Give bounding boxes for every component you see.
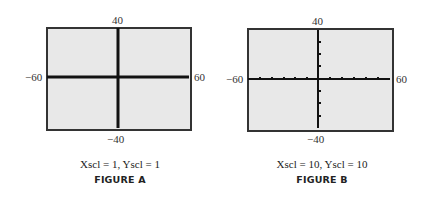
caption-a: Xscl = 1, Yscl = 1 [70,158,170,170]
figure-a: 40 −40 −60 60 Xscl = 1, Yscl = 1 FIGURE … [0,0,212,197]
ymax-label-b: 40 [312,16,323,27]
caption-b: Xscl = 10, Yscl = 10 [262,158,382,170]
ymin-label-b: −40 [307,134,324,145]
ymax-label-a: 40 [112,15,123,26]
ymin-label-a: −40 [107,134,124,145]
xmax-label-b: 60 [396,74,407,85]
figure-title-b: FIGURE B [272,174,372,185]
figure-title-a: FIGURE A [70,174,170,185]
xmax-label-a: 60 [194,72,205,83]
xmin-label-a: −60 [25,72,42,83]
figure-b: 40 −40 −60 60 Xscl = 10, Yscl = 10 FIGUR… [212,0,424,197]
xmin-label-b: −60 [226,74,243,85]
